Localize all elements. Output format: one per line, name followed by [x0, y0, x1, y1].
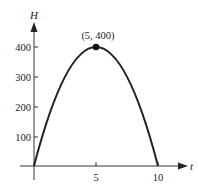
parabola-curve: [34, 47, 158, 166]
vertex-point: [93, 44, 100, 51]
x-tick-label-10: 10: [153, 172, 164, 183]
x-axis-arrow-icon: [178, 163, 188, 170]
y-tick-label-100: 100: [15, 132, 31, 143]
chart: t H 400 300 200 100 5 10 (5, 400): [0, 0, 198, 192]
y-axis-arrow-icon: [31, 22, 38, 32]
vertex-label: (5, 400): [81, 30, 115, 42]
x-axis-label: t: [190, 160, 194, 172]
y-axis-label: H: [29, 9, 39, 21]
x-ticks: 5 10: [93, 162, 163, 183]
x-tick-label-5: 5: [93, 172, 98, 183]
y-ticks: 400 300 200 100: [15, 42, 38, 143]
y-tick-label-200: 200: [15, 102, 31, 113]
y-tick-label-400: 400: [15, 42, 31, 53]
y-tick-label-300: 300: [15, 72, 31, 83]
